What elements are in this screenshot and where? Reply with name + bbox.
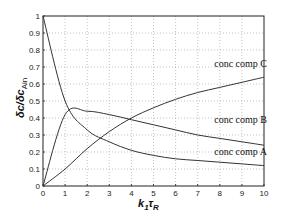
y-tick-label: 0.5 — [29, 97, 41, 106]
chart: 012345678910 00.10.20.30.40.50.60.70.80.… — [0, 0, 281, 222]
y-tick-label: 0.8 — [29, 46, 41, 55]
y-tick-label: 0.4 — [29, 114, 41, 123]
series-label: conc comp A — [214, 146, 268, 157]
y-tick-label: 0.6 — [29, 80, 41, 89]
x-tick-label: 2 — [85, 189, 90, 198]
x-tick-label: 4 — [129, 189, 134, 198]
x-axis-label: k1τR — [138, 197, 159, 212]
x-tick-label: 9 — [240, 189, 245, 198]
grid-lines — [43, 16, 264, 186]
x-tick-label: 1 — [63, 189, 68, 198]
x-tick-label: 7 — [195, 189, 200, 198]
x-tick-label: 3 — [107, 189, 112, 198]
series-label: conc comp C — [214, 58, 267, 69]
x-tick-label: 0 — [41, 189, 46, 198]
y-tick-label: 0.7 — [29, 63, 41, 72]
y-tick-label: 0.1 — [29, 165, 41, 174]
x-tick-label: 8 — [218, 189, 223, 198]
y-tick-label: 1 — [36, 12, 41, 21]
y-tick-label: 0.9 — [29, 29, 41, 38]
series-labels: conc comp Cconc comp Bconc comp A — [214, 58, 268, 157]
x-tick-label: 10 — [260, 189, 269, 198]
series-label: conc comp B — [214, 114, 267, 125]
y-tick-label: 0 — [36, 182, 41, 191]
y-tick-label: 0.3 — [29, 131, 41, 140]
y-tick-label: 0.2 — [29, 148, 41, 157]
x-tick-label: 6 — [173, 189, 178, 198]
series-line — [43, 16, 264, 166]
y-axis-label: δc/δcAin — [14, 78, 29, 118]
